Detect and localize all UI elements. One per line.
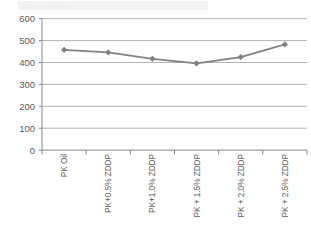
x-category-label: PK+1.0% ZDDP xyxy=(145,154,159,240)
x-category-label-text: PK + 1.5% ZDDP xyxy=(193,154,202,217)
y-tick-label: 100 xyxy=(19,123,35,134)
gridlines xyxy=(42,19,307,129)
y-tick-label: 500 xyxy=(19,35,35,46)
data-point-marker xyxy=(238,54,244,60)
data-point-marker xyxy=(282,41,288,47)
x-axis-category-labels: PK Oil PK+0.5% ZDDP PK+1.0% ZDDP PK + 1.… xyxy=(0,154,311,243)
x-category-label-text: PK + 2.5% ZDDP xyxy=(281,154,290,217)
x-category-label-text: PK+0.5% ZDDP xyxy=(104,154,113,213)
data-point-marker xyxy=(193,60,199,66)
y-tick-label: 600 xyxy=(19,13,35,24)
y-tick-label: 400 xyxy=(19,57,35,68)
x-category-label-text: PK+1.0% ZDDP xyxy=(148,154,157,213)
data-point-marker xyxy=(105,49,111,55)
x-category-label: PK + 1.5% ZDDP xyxy=(190,154,204,240)
data-point-marker xyxy=(149,56,155,62)
x-category-label-text: PK Oil xyxy=(60,154,69,177)
x-category-label: PK + 2.5% ZDDP xyxy=(278,154,292,240)
x-category-label: PK+0.5% ZDDP xyxy=(101,154,115,240)
y-axis-tick-labels: 600 500 400 300 200 100 0 xyxy=(19,13,35,155)
y-tick-label: 200 xyxy=(19,101,35,112)
x-category-label: PK Oil xyxy=(57,154,71,240)
data-point-marker xyxy=(61,47,67,53)
plot-area: 600 500 400 300 200 100 0 PK Oil PK+0.5%… xyxy=(0,0,311,243)
x-category-label-text: PK + 2.0% ZDDP xyxy=(237,154,246,217)
series-polyline xyxy=(64,44,285,63)
y-tick-label: 300 xyxy=(19,79,35,90)
line-chart: scan artifact xyxy=(0,0,311,243)
x-category-label: PK + 2.0% ZDDP xyxy=(234,154,248,240)
